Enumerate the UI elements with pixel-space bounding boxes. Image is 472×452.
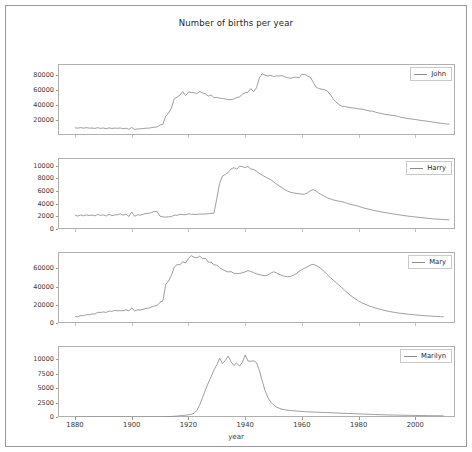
y-tick-label: 60000 [33, 264, 54, 272]
x-tick-mark [415, 229, 416, 232]
y-tick-label: 8000 [37, 174, 54, 182]
y-tick-label: 20000 [33, 116, 54, 124]
y-tick-label: 40000 [33, 101, 54, 109]
x-tick-mark [245, 135, 246, 138]
x-axis-ticks: 1880190019201940196019802000 [58, 346, 455, 417]
y-tick-mark [56, 216, 59, 217]
x-tick-mark [245, 417, 246, 420]
y-tick-label: 20000 [33, 301, 54, 309]
x-tick-mark [359, 417, 360, 420]
y-tick-label: 60000 [33, 86, 54, 94]
x-tick-mark [415, 135, 416, 138]
x-tick-label: 1920 [180, 421, 197, 429]
legend-line-icon [414, 74, 427, 75]
legend-label-marilyn: Marilyn [421, 352, 446, 360]
x-tick-mark [415, 323, 416, 326]
y-tick-mark [56, 178, 59, 179]
y-tick-mark [56, 204, 59, 205]
chart-title: Number of births per year [0, 18, 472, 28]
y-tick-mark [56, 287, 59, 288]
line-series-mary [58, 252, 455, 323]
y-tick-label: 5000 [37, 384, 54, 392]
x-tick-mark [75, 323, 76, 326]
y-tick-mark [56, 305, 59, 306]
legend-marilyn: Marilyn [400, 349, 452, 363]
y-tick-mark [56, 105, 59, 106]
subplot-harry: 0200040006000800010000 Harry [58, 158, 455, 229]
y-tick-mark [56, 417, 59, 418]
x-tick-mark [302, 323, 303, 326]
x-tick-mark [415, 417, 416, 420]
legend-line-icon [404, 356, 417, 357]
y-tick-label: 0 [50, 225, 54, 233]
subplot-mary: 0200004000060000 Mary [58, 252, 455, 323]
legend-label-harry: Harry [427, 164, 446, 172]
x-tick-mark [359, 135, 360, 138]
x-tick-mark [245, 323, 246, 326]
line-series-john [58, 64, 455, 135]
legend-line-icon [410, 168, 423, 169]
x-tick-mark [245, 229, 246, 232]
y-tick-label: 4000 [37, 200, 54, 208]
x-tick-mark [188, 323, 189, 326]
y-tick-mark [56, 268, 59, 269]
x-tick-label: 1940 [237, 421, 254, 429]
x-tick-mark [75, 229, 76, 232]
x-tick-label: 1980 [350, 421, 367, 429]
x-tick-mark [188, 135, 189, 138]
x-axis-label: year [0, 433, 472, 441]
y-tick-label: 0 [50, 413, 54, 421]
y-tick-label: 2500 [37, 399, 54, 407]
y-tick-mark [56, 323, 59, 324]
x-tick-mark [132, 417, 133, 420]
y-tick-label: 6000 [37, 187, 54, 195]
y-tick-label: 10000 [33, 162, 54, 170]
x-tick-label: 2000 [407, 421, 424, 429]
y-tick-mark [56, 229, 59, 230]
y-tick-label: 0 [50, 319, 54, 327]
legend-john: John [410, 67, 452, 81]
y-tick-label: 2000 [37, 212, 54, 220]
x-tick-mark [75, 417, 76, 420]
figure-canvas: Number of births per year 20000400006000… [0, 0, 472, 452]
line-series-harry [58, 158, 455, 229]
y-tick-mark [56, 120, 59, 121]
legend-label-mary: Mary [429, 258, 446, 266]
x-tick-mark [188, 229, 189, 232]
x-tick-mark [302, 135, 303, 138]
x-tick-mark [302, 417, 303, 420]
y-tick-label: 7500 [37, 370, 54, 378]
y-tick-mark [56, 191, 59, 192]
y-tick-mark [56, 90, 59, 91]
x-tick-mark [302, 229, 303, 232]
y-tick-mark [56, 75, 59, 76]
x-tick-mark [359, 229, 360, 232]
subplot-john: 20000400006000080000 John [58, 64, 455, 135]
legend-mary: Mary [408, 255, 452, 269]
legend-harry: Harry [406, 161, 452, 175]
y-tick-label: 10000 [33, 355, 54, 363]
x-tick-label: 1880 [66, 421, 83, 429]
x-tick-mark [359, 323, 360, 326]
x-tick-mark [132, 135, 133, 138]
x-tick-label: 1960 [293, 421, 310, 429]
subplot-marilyn: 025005000750010000 188019001920194019601… [58, 346, 455, 417]
y-tick-mark [56, 166, 59, 167]
y-tick-label: 40000 [33, 283, 54, 291]
legend-label-john: John [431, 70, 446, 78]
x-tick-mark [188, 417, 189, 420]
x-tick-mark [75, 135, 76, 138]
x-tick-mark [132, 229, 133, 232]
x-tick-label: 1900 [123, 421, 140, 429]
y-tick-label: 80000 [33, 71, 54, 79]
x-tick-mark [132, 323, 133, 326]
legend-line-icon [412, 262, 425, 263]
